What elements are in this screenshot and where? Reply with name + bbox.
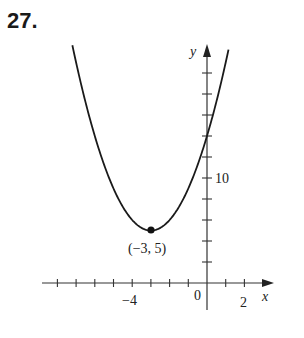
y-axis [202,44,212,310]
x-axis-arrow-icon [262,279,274,287]
x-axis [42,279,274,287]
y-tick-label-10: 10 [215,171,229,186]
vertex-label: (−3, 5) [128,241,167,257]
vertex-point [147,226,154,233]
x-tick-label-2: 2 [240,295,247,310]
y-axis-label: y [188,44,197,59]
y-axis-arrow-icon [203,44,211,57]
parabola-graph: y x −4 0 2 10 (−3, 5) [0,0,304,338]
x-tick-label-neg4: −4 [122,293,137,308]
x-tick-label-0: 0 [194,288,201,303]
x-axis-label: x [261,289,269,304]
